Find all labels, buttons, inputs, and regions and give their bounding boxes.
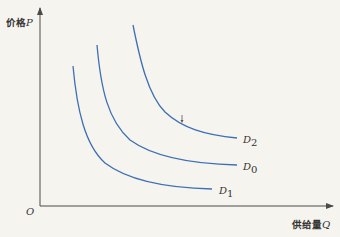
curve-label-d1: D1 [218, 185, 233, 199]
curve-d0 [97, 45, 237, 165]
annotation-arrowhead [181, 120, 184, 123]
curve-d2 [133, 25, 237, 138]
curve-label-d2: D2 [242, 134, 257, 148]
curve-label-d0: D0 [242, 161, 257, 175]
curve-d1 [73, 66, 212, 189]
origin-label: O [26, 206, 34, 217]
supply-curves-chart: 价格P 供给量Q O D2 D0 D1 [0, 0, 340, 237]
x-axis-label: 供给量Q [291, 219, 330, 230]
y-axis-label: 价格P [6, 17, 33, 28]
